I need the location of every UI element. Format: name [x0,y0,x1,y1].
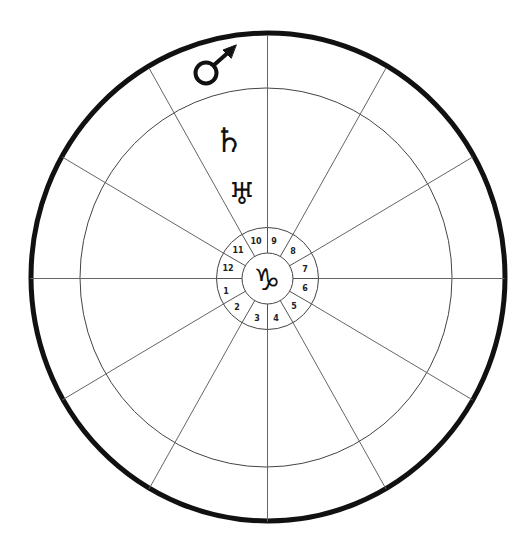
house-cusp-line [312,157,473,253]
house-number-1: 1 [223,287,229,296]
capricorn-icon: ♑ [254,262,281,297]
house-number-9: 9 [271,237,277,246]
uranus-icon: ♅ [229,176,256,211]
saturn-icon: ♄ [214,120,244,160]
house-cusp-line [293,323,386,489]
mars-icon [196,45,237,84]
house-cusp-line [62,157,223,253]
house-number-11: 11 [232,246,244,255]
astrology-chart-wheel: 123456789101112 ♑ ♄ ♅ [0,0,529,556]
house-number-3: 3 [254,314,260,323]
house-cusp-line [312,304,473,400]
house-number-10: 10 [250,237,262,246]
house-number-8: 8 [290,247,296,256]
house-number-4: 4 [273,314,279,323]
house-number-5: 5 [291,302,297,311]
house-number-6: 6 [302,284,308,293]
house-cusp-line [62,304,223,400]
house-number-7: 7 [302,265,308,274]
house-number-2: 2 [234,303,240,312]
house-number-12: 12 [222,264,233,273]
house-cusp-line [149,323,242,489]
